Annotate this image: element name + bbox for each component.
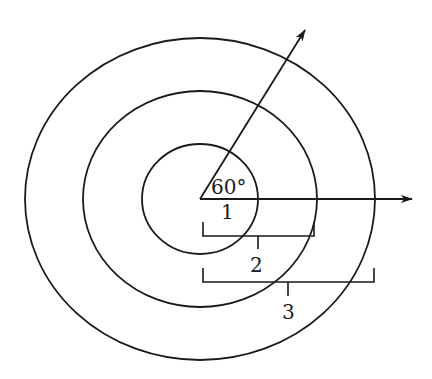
radius-1-label: 1 [221,200,234,224]
radius-2-label: 2 [250,253,263,277]
bracket-radius-3 [203,268,374,296]
angle-label: 60° [211,175,246,199]
concentric-circles-diagram: 60° 1 2 3 [0,0,432,379]
bracket-radius-2 [203,222,314,249]
radius-3-label: 3 [282,300,295,324]
